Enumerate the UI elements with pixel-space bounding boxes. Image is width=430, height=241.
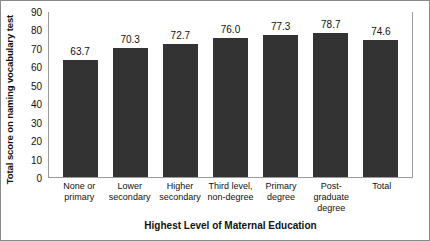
x-axis-tick-label: None orprimary: [54, 181, 104, 214]
bar-series: 63.770.372.776.077.378.774.6: [49, 12, 412, 177]
bar-slot: 78.7: [306, 12, 356, 177]
plot-area: 63.770.372.776.077.378.774.6: [48, 12, 413, 178]
bar-slot: 70.3: [105, 12, 155, 177]
bar[interactable]: 63.7: [63, 60, 98, 177]
y-axis-tick-label: 90: [31, 7, 42, 18]
x-axis-tick-label: Primarydegree: [256, 181, 306, 214]
y-axis-tick-label: 70: [31, 43, 42, 54]
bar-slot: 72.7: [155, 12, 205, 177]
y-axis-tick-label: 80: [31, 25, 42, 36]
bar-chart-figure: Total score on naming vocabulary test 01…: [0, 0, 430, 241]
bar-value-label: 76.0: [221, 24, 240, 35]
bar-value-label: 63.7: [70, 46, 89, 57]
y-axis-tick-label: 40: [31, 99, 42, 110]
bar-value-label: 72.7: [171, 30, 190, 41]
bar[interactable]: 70.3: [113, 48, 148, 177]
bar[interactable]: 78.7: [313, 33, 348, 177]
bar[interactable]: 72.7: [163, 44, 198, 177]
x-axis-tick-label: Total: [357, 181, 407, 214]
bar-value-label: 77.3: [271, 21, 290, 32]
y-axis-tick-label: 0: [36, 173, 42, 184]
x-axis-tick-label: Lowersecondary: [104, 181, 154, 214]
y-axis-tick-label: 30: [31, 117, 42, 128]
bar-value-label: 70.3: [120, 34, 139, 45]
y-axis-tick-label: 60: [31, 62, 42, 73]
y-axis-tick-labels: 0102030405060708090: [19, 12, 45, 178]
y-axis-title-text: Total score on naming vocabulary test: [5, 14, 16, 183]
x-axis-tick-labels: None orprimaryLowersecondaryHighersecond…: [48, 181, 413, 214]
bar-value-label: 74.6: [371, 26, 390, 37]
x-axis-tick-label: Third level,non-degree: [205, 181, 255, 214]
bar[interactable]: 76.0: [213, 38, 248, 177]
bar-slot: 77.3: [256, 12, 306, 177]
bar-slot: 74.6: [356, 12, 406, 177]
y-axis-tick-label: 50: [31, 80, 42, 91]
bar[interactable]: 74.6: [363, 40, 398, 177]
y-axis-tick-label: 20: [31, 136, 42, 147]
bar-slot: 76.0: [205, 12, 255, 177]
x-axis-tick-label: Highersecondary: [155, 181, 205, 214]
bar[interactable]: 77.3: [263, 35, 298, 177]
y-axis-tick-label: 10: [31, 154, 42, 165]
x-axis-tick-label: Post-graduatedegree: [306, 181, 356, 214]
y-axis-title: Total score on naming vocabulary test: [1, 1, 19, 197]
x-axis-title: Highest Level of Maternal Education: [48, 220, 413, 231]
bar-slot: 63.7: [55, 12, 105, 177]
bar-value-label: 78.7: [321, 19, 340, 30]
